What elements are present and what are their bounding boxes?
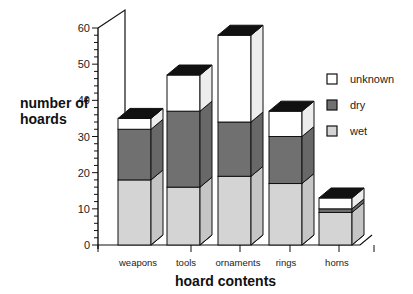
x-tick-label-tools: tools	[176, 257, 196, 268]
y-axis: 0102030405060	[78, 22, 98, 251]
bar-weapons	[118, 108, 163, 245]
bar-rings	[269, 101, 314, 245]
y-tick-label: 30	[78, 131, 90, 143]
segment-dry	[319, 209, 352, 213]
segment-dry	[167, 111, 200, 187]
x-tick-label-weapons: weapons	[118, 257, 157, 268]
segment-dry	[118, 129, 151, 180]
legend-label: dry	[350, 99, 366, 111]
legend-item-wet: wet	[327, 125, 367, 137]
legend-item-unknown: unknown	[327, 73, 394, 85]
bar-ornaments	[218, 25, 263, 245]
x-axis: weaponstoolsornamentsringshorns	[98, 245, 374, 268]
legend: unknowndrywet	[327, 73, 394, 137]
bar-tools	[167, 65, 212, 245]
segment-wet	[218, 176, 251, 245]
legend-item-dry: dry	[327, 99, 366, 111]
legend-label: wet	[349, 125, 367, 137]
segment-wet	[269, 184, 302, 245]
x-tick-label-rings: rings	[276, 257, 297, 268]
y-tick-label: 60	[78, 22, 90, 34]
y-axis-title-line1: number of	[20, 95, 89, 111]
legend-swatch	[327, 126, 337, 136]
y-tick-label: 0	[84, 239, 90, 251]
y-tick-label: 10	[78, 203, 90, 215]
segment-wet	[167, 187, 200, 245]
y-axis-title-line2: hoards	[20, 111, 67, 127]
legend-swatch	[327, 74, 337, 84]
segment-unknown	[167, 75, 200, 111]
x-tick-label-ornaments: ornaments	[216, 257, 261, 268]
segment-unknown	[269, 111, 302, 136]
y-tick-label: 50	[78, 58, 90, 70]
segment-dry	[269, 137, 302, 184]
x-axis-title: hoard contents	[175, 273, 276, 289]
segment-wet	[118, 180, 151, 245]
x-tick-label-horns: horns	[325, 257, 349, 268]
stacked-3d-bar-chart: 0102030405060 weaponstoolsornamentsrings…	[0, 0, 413, 294]
segment-unknown	[218, 35, 251, 122]
segment-unknown	[319, 198, 352, 209]
legend-label: unknown	[350, 73, 394, 85]
segment-wet	[319, 212, 352, 245]
segment-unknown	[118, 118, 151, 129]
segment-dry	[218, 122, 251, 176]
y-tick-label: 20	[78, 167, 90, 179]
legend-swatch	[327, 100, 337, 110]
bar-horns	[319, 188, 364, 245]
